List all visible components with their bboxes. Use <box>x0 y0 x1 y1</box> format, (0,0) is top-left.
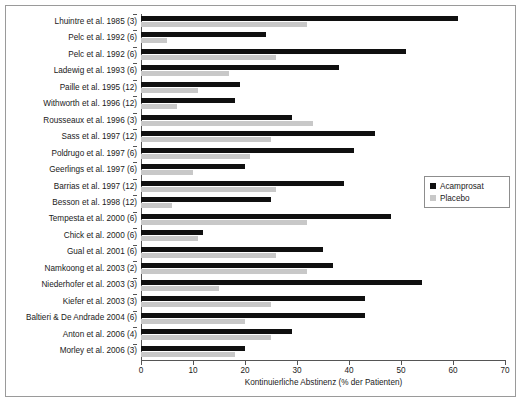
bar-acamprosat <box>141 131 375 136</box>
y-axis-label: Rousseaux et al. 1996 (3) <box>43 116 137 125</box>
y-axis-label: Baltieri & De Andrade 2004 (6) <box>26 313 137 322</box>
y-axis-label: Anton et al. 2006 (4) <box>63 330 137 339</box>
x-axis-tick <box>245 361 246 365</box>
y-axis-tick <box>133 80 137 81</box>
chart-legend: AcamprosatPlacebo <box>424 176 510 208</box>
bar-placebo <box>141 170 193 175</box>
bar-group <box>141 228 505 244</box>
bar-acamprosat <box>141 346 245 351</box>
y-axis-tick <box>133 47 137 48</box>
x-axis-tick-label: 30 <box>292 366 301 375</box>
bar-placebo <box>141 154 250 159</box>
bar-placebo <box>141 71 229 76</box>
y-axis-tick <box>133 212 137 213</box>
y-axis-tick <box>133 278 137 279</box>
bar-group <box>141 311 505 327</box>
bar-group <box>141 113 505 129</box>
legend-swatch-icon <box>430 183 436 189</box>
y-axis-tick <box>133 179 137 180</box>
bar-acamprosat <box>141 98 235 103</box>
x-axis-tick-label: 20 <box>240 366 249 375</box>
bar-group <box>141 146 505 162</box>
bar-acamprosat <box>141 197 271 202</box>
y-axis-label: Geerlings et al. 1997 (6) <box>49 165 137 174</box>
bar-group <box>141 63 505 79</box>
y-axis-label: Namkoong et al. 2003 (2) <box>45 264 137 273</box>
bar-acamprosat <box>141 247 323 252</box>
bar-group <box>141 294 505 310</box>
bar-group <box>141 129 505 145</box>
y-axis-tick <box>133 261 137 262</box>
bar-placebo <box>141 203 172 208</box>
bar-group <box>141 14 505 30</box>
y-axis-tick <box>133 327 137 328</box>
bar-placebo <box>141 55 276 60</box>
bar-placebo <box>141 269 307 274</box>
y-axis-tick <box>133 113 137 114</box>
bar-placebo <box>141 352 235 357</box>
y-axis-label: Pelc et al. 1992 (6) <box>68 33 137 42</box>
bar-placebo <box>141 335 271 340</box>
bar-group <box>141 278 505 294</box>
legend-item: Placebo <box>430 193 504 203</box>
y-axis-label: Ladewig et al. 1993 (6) <box>54 66 137 75</box>
x-axis-tick <box>349 361 350 365</box>
bar-group <box>141 30 505 46</box>
bar-placebo <box>141 302 271 307</box>
x-axis-tick-label: 70 <box>500 366 509 375</box>
y-axis-label: Lhuintre et al. 1985 (3) <box>55 17 137 26</box>
y-axis-tick <box>133 344 137 345</box>
y-axis-label: Paille et al. 1995 (12) <box>60 83 137 92</box>
bar-placebo <box>141 286 219 291</box>
bar-placebo <box>141 22 307 27</box>
bar-acamprosat <box>141 313 365 318</box>
bar-acamprosat <box>141 181 344 186</box>
y-axis-label: Sass et al. 1997 (12) <box>61 132 137 141</box>
bar-acamprosat <box>141 164 245 169</box>
bar-group <box>141 344 505 360</box>
bar-group <box>141 47 505 63</box>
bar-placebo <box>141 220 307 225</box>
bar-placebo <box>141 38 167 43</box>
bar-acamprosat <box>141 148 354 153</box>
y-axis-tick <box>133 146 137 147</box>
y-axis-label: Pelc et al. 1992 (6) <box>68 50 137 59</box>
x-axis-tick-label: 40 <box>344 366 353 375</box>
y-axis-tick <box>133 96 137 97</box>
legend-swatch-icon <box>430 195 436 201</box>
y-axis-label: Gual et al. 2001 (6) <box>67 247 137 256</box>
y-axis-tick <box>133 162 137 163</box>
y-axis-tick <box>133 311 137 312</box>
bar-acamprosat <box>141 32 266 37</box>
bar-acamprosat <box>141 230 203 235</box>
y-axis-tick <box>133 245 137 246</box>
bar-acamprosat <box>141 296 365 301</box>
bar-group <box>141 96 505 112</box>
bar-acamprosat <box>141 49 406 54</box>
bar-group <box>141 327 505 343</box>
y-axis-category-labels: Lhuintre et al. 1985 (3)Pelc et al. 1992… <box>0 14 137 360</box>
bar-acamprosat <box>141 214 391 219</box>
y-axis-tick <box>133 294 137 295</box>
legend-label: Acamprosat <box>440 182 484 191</box>
x-axis-tick-label: 10 <box>188 366 197 375</box>
bar-placebo <box>141 121 313 126</box>
y-axis-tick <box>133 14 137 15</box>
y-axis-tick <box>133 195 137 196</box>
y-axis-tick <box>133 228 137 229</box>
bar-placebo <box>141 137 271 142</box>
bar-placebo <box>141 187 276 192</box>
x-axis-tick-label: 50 <box>396 366 405 375</box>
x-axis-tick <box>141 361 142 365</box>
bar-group <box>141 80 505 96</box>
bar-acamprosat <box>141 82 240 87</box>
x-axis-tick-label: 0 <box>139 366 144 375</box>
y-axis-label: Barrias et al. 1997 (12) <box>54 182 137 191</box>
y-axis-tick <box>133 30 137 31</box>
bar-acamprosat <box>141 16 458 21</box>
y-axis-label: Chick et al. 2000 (6) <box>64 231 137 240</box>
bar-acamprosat <box>141 115 292 120</box>
y-axis-label: Poldrugo et al. 1997 (6) <box>51 149 137 158</box>
x-axis-tick <box>453 361 454 365</box>
y-axis-label: Niederhofer et al. 2003 (3) <box>41 280 137 289</box>
